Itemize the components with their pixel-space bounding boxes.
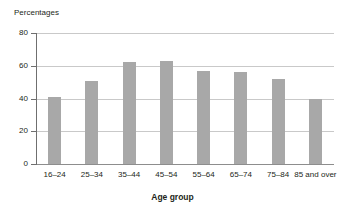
y-axis-tick (31, 131, 36, 132)
y-axis-label: 0 (0, 160, 28, 168)
gridline (36, 33, 334, 34)
y-axis-label: 60 (0, 62, 28, 70)
y-axis-tick (31, 66, 36, 67)
y-axis-tick (31, 99, 36, 100)
gridline (36, 66, 334, 67)
bar (123, 62, 136, 164)
y-axis-line (36, 33, 37, 165)
bar (48, 97, 61, 164)
y-axis-caption: Percentages (14, 8, 59, 18)
gridline (36, 131, 334, 132)
gridline (36, 164, 334, 165)
bar (85, 81, 98, 165)
x-axis-label: 85 and over (293, 170, 337, 180)
bar (197, 71, 210, 164)
gridline (36, 99, 334, 100)
bar (309, 99, 322, 165)
bar (272, 79, 285, 164)
y-axis-tick (31, 33, 36, 34)
bar (160, 61, 173, 164)
y-axis-label: 80 (0, 29, 28, 37)
y-axis-tick (31, 164, 36, 165)
y-axis-label: 40 (0, 95, 28, 103)
y-axis-label: 20 (0, 127, 28, 135)
x-axis-title: Age group (0, 192, 345, 202)
bar-chart: Percentages Age group 02040608016–2425–3… (0, 0, 345, 209)
plot-area (36, 33, 334, 164)
bar (234, 72, 247, 164)
